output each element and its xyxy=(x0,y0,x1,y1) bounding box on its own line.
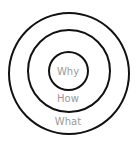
label-what: What xyxy=(38,117,98,127)
label-why: Why xyxy=(38,67,98,77)
label-how: How xyxy=(38,94,98,104)
